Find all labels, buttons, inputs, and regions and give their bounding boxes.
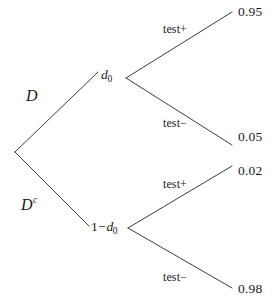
branch-label-disease-text: D	[26, 87, 38, 104]
branch-label-complement-superscript: c	[33, 195, 37, 205]
edge-d0-to-test-minus	[126, 78, 232, 145]
node-not-d0-prefix: 1	[91, 219, 98, 234]
branch-label-disease-complement-text: D	[21, 196, 33, 213]
leaf-value-0-02: 0.02	[238, 164, 262, 178]
branch-label-disease-complement: Dc	[21, 197, 37, 213]
edge-label-not-d0-test-plus-text: test+	[163, 177, 187, 191]
edge-root-to-not-d0	[15, 152, 89, 226]
leaf-value-0-05: 0.05	[238, 130, 262, 144]
edge-label-d0-test-plus: test+	[163, 23, 187, 35]
leaf-value-0-98: 0.98	[238, 282, 262, 296]
node-d0-subscript: 0	[107, 74, 112, 84]
node-label-d0: d0	[101, 68, 113, 82]
node-not-d0-subscript: 0	[113, 226, 118, 236]
node-label-one-minus-d0: 1−d0	[91, 220, 118, 234]
probability-tree-diagram: D Dc d0 1−d0 test+ test− test+ test− 0.9…	[0, 0, 278, 306]
edge-label-d0-test-minus: test−	[163, 117, 187, 129]
edge-not-d0-to-test-plus	[128, 166, 232, 228]
leaf-value-0-98-text: 0.98	[238, 281, 262, 296]
edge-label-not-d0-test-minus-text: test−	[163, 270, 187, 284]
leaf-value-0-02-text: 0.02	[238, 163, 262, 178]
edge-label-d0-test-minus-text: test−	[163, 116, 187, 130]
tree-edges-svg	[0, 0, 278, 306]
edge-label-not-d0-test-minus: test−	[163, 271, 187, 283]
leaf-value-0-95-text: 0.95	[238, 4, 262, 19]
edge-root-to-d0	[15, 72, 98, 152]
leaf-value-0-05-text: 0.05	[238, 129, 262, 144]
branch-label-disease: D	[26, 88, 38, 104]
edge-label-not-d0-test-plus: test+	[163, 178, 187, 190]
leaf-value-0-95: 0.95	[238, 5, 262, 19]
edge-label-d0-test-plus-text: test+	[163, 22, 187, 36]
